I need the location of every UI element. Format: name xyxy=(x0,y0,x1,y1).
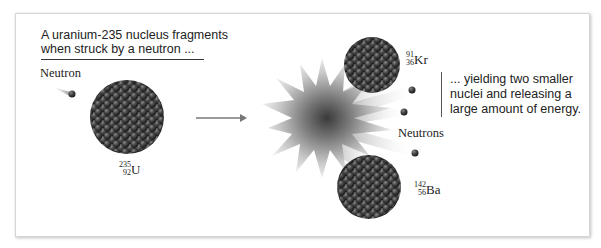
barium-atomic-number: 56 xyxy=(418,188,426,197)
incoming-neutron-icon xyxy=(50,86,76,98)
caption-left-line1: A uranium-235 nucleus fragments xyxy=(41,28,204,42)
isotope-label-krypton: 9136Kr xyxy=(406,50,428,67)
reaction-arrow-icon xyxy=(196,114,247,122)
uranium-atomic-number: 92 xyxy=(123,168,131,177)
outgoing-neutron-icon xyxy=(401,109,408,116)
uranium-nucleus-icon xyxy=(90,80,164,154)
outgoing-neutron-icon xyxy=(412,150,419,157)
caption-fission-start: A uranium-235 nucleus fragments when str… xyxy=(41,28,204,60)
isotope-label-barium: 14256Ba xyxy=(414,180,440,197)
caption-right-line3: large amount of energy. xyxy=(450,102,581,117)
krypton-atomic-number: 36 xyxy=(406,58,414,67)
isotope-label-uranium: 23592U xyxy=(119,160,140,177)
caption-right-line1: ... yielding two smaller xyxy=(450,72,581,87)
krypton-nucleus-icon xyxy=(344,37,400,93)
uranium-symbol: U xyxy=(131,163,140,176)
barium-nucleus-icon xyxy=(337,155,401,219)
caption-fission-result: ... yielding two smaller nuclei and rele… xyxy=(441,72,581,117)
caption-right-line2: nuclei and releasing a xyxy=(450,87,581,102)
krypton-symbol: Kr xyxy=(414,53,428,66)
outgoing-neutron-icon xyxy=(409,87,416,94)
caption-left-line2: when struck by a neutron ... xyxy=(41,42,204,56)
label-outgoing-neutrons: Neutrons xyxy=(398,126,444,141)
barium-symbol: Ba xyxy=(426,183,440,196)
label-incoming-neutron: Neutron xyxy=(40,66,81,81)
